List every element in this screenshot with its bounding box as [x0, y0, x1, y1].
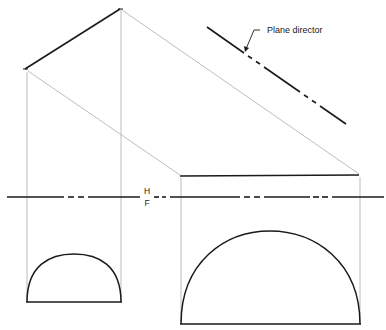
plane-director-label: Plane director	[267, 25, 323, 35]
fold-label-f: F	[144, 198, 149, 208]
auxiliary-top-edge	[180, 175, 359, 176]
leader-line	[246, 30, 260, 49]
top-view-edge	[25, 9, 120, 69]
fold-label-h: H	[144, 186, 150, 196]
large-semicircle	[181, 231, 360, 324]
projection-lines	[27, 10, 360, 322]
projector-lower-diagonal	[28, 71, 180, 175]
projection-drawing: Plane director H F	[0, 0, 386, 330]
projector-upper-diagonal	[122, 10, 359, 174]
small-semicircle	[27, 254, 121, 302]
plane-director-line	[207, 27, 346, 124]
